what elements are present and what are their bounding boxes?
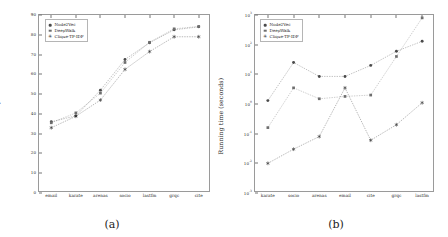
data-point: [148, 50, 151, 54]
y-tick-label: 10-3: [244, 190, 252, 195]
square-marker-icon: [263, 29, 267, 33]
legend-a: Node2VecDeepWalk✳Clique-TF-IDF: [45, 19, 88, 42]
y-tick-mark: [255, 193, 258, 194]
y-tick-label: 90: [31, 13, 36, 17]
data-point: [344, 75, 347, 78]
legend-label: Clique-TF-IDF: [55, 34, 84, 40]
data-point: [124, 58, 127, 61]
y-tick-mark: [255, 133, 258, 134]
data-point: [369, 94, 372, 97]
x-tick-mark: [370, 15, 371, 18]
data-point: [173, 27, 176, 30]
panel-caption-b: (b): [224, 218, 448, 231]
y-tick-mark: [39, 193, 42, 194]
x-tick-label: cite: [195, 194, 203, 198]
x-tick-mark: [396, 15, 397, 18]
x-tick-label: socio: [119, 194, 130, 198]
x-tick-label: arenas: [93, 194, 108, 198]
data-point: [292, 147, 295, 151]
circle-marker-icon: [48, 23, 52, 27]
series-line: [268, 88, 422, 163]
data-point: [99, 92, 102, 95]
data-point: [369, 138, 372, 142]
data-point: [266, 161, 269, 165]
y-tick-label: 50: [31, 92, 36, 96]
data-point: [124, 61, 127, 64]
x-tick-mark: [174, 15, 175, 18]
y-tick-label: 101: [245, 72, 252, 77]
y-tick-label: 0: [33, 191, 36, 195]
data-point: [292, 87, 295, 90]
y-tick-label: 10-1: [244, 131, 252, 136]
data-point: [267, 126, 270, 129]
y-tick-mark: [39, 74, 42, 75]
y-tick-label: 10-2: [244, 161, 252, 166]
x-tick-mark: [149, 15, 150, 18]
panel-caption-a: (a): [0, 218, 224, 231]
x-tick-mark: [293, 15, 294, 18]
data-point: [395, 50, 398, 53]
square-marker-icon: [48, 29, 52, 33]
data-point: [395, 55, 398, 58]
data-point: [343, 86, 346, 90]
data-point: [395, 123, 398, 127]
x-tick-mark: [51, 15, 52, 18]
data-point: [50, 121, 53, 124]
data-point: [197, 25, 200, 28]
data-point: [148, 41, 151, 44]
plot-area-a: 0102030405060708090emailkaratearenassoci…: [38, 14, 210, 192]
y-tick-mark: [255, 74, 258, 75]
data-point: [318, 75, 321, 78]
x-tick-mark: [319, 15, 320, 18]
x-tick-label: karate: [261, 194, 275, 198]
y-tick-mark: [39, 173, 42, 174]
y-tick-mark: [39, 94, 42, 95]
y-tick-label: 10: [31, 171, 36, 175]
x-tick-label: email: [339, 194, 351, 198]
legend-label: Clique-TF-IDF: [270, 34, 299, 40]
y-tick-mark: [255, 44, 258, 45]
y-tick-mark: [39, 153, 42, 154]
data-point: [292, 61, 295, 64]
asterisk-marker-icon: ✳: [263, 35, 267, 39]
x-tick-label: arenas: [312, 194, 327, 198]
y-tick-mark: [39, 34, 42, 35]
data-point: [318, 135, 321, 139]
y-tick-mark: [39, 113, 42, 114]
legend-entry: ✳Clique-TF-IDF: [263, 34, 299, 40]
x-tick-label: email: [45, 194, 57, 198]
data-point: [123, 67, 126, 71]
x-tick-label: cite: [367, 194, 375, 198]
circle-marker-icon: [263, 23, 267, 27]
x-tick-mark: [125, 15, 126, 18]
y-axis-label-b: Running time (seconds): [217, 82, 224, 154]
data-point: [99, 89, 102, 92]
panel-a: 0102030405060708090emailkaratearenassoci…: [0, 0, 224, 237]
y-tick-mark: [255, 163, 258, 164]
data-point: [266, 99, 269, 102]
legend-entry: ✳Clique-TF-IDF: [48, 34, 84, 40]
y-tick-mark: [39, 133, 42, 134]
y-tick-label: 60: [31, 72, 36, 76]
x-tick-label: socio: [288, 194, 299, 198]
data-point: [344, 95, 347, 98]
data-point: [420, 101, 423, 105]
x-tick-mark: [100, 15, 101, 18]
y-tick-label: 40: [31, 112, 36, 116]
plot-area-b: 10-310-210-1100101102103karatesocioarena…: [254, 14, 434, 192]
x-tick-label: karate: [69, 194, 83, 198]
data-point: [421, 40, 424, 43]
y-tick-mark: [39, 54, 42, 55]
panel-b: 10-310-210-1100101102103karatesocioarena…: [224, 0, 448, 237]
y-tick-label: 102: [245, 42, 252, 47]
y-tick-label: 100: [245, 101, 252, 106]
legend-b: Node2VecDeepWalk✳Clique-TF-IDF: [260, 19, 303, 42]
y-tick-label: 20: [31, 151, 36, 155]
y-tick-label: 103: [245, 12, 252, 17]
x-tick-mark: [422, 15, 423, 18]
asterisk-marker-icon: ✳: [48, 35, 52, 39]
y-tick-mark: [39, 15, 42, 16]
y-tick-mark: [255, 15, 258, 16]
data-point: [318, 97, 321, 100]
x-tick-mark: [75, 15, 76, 18]
